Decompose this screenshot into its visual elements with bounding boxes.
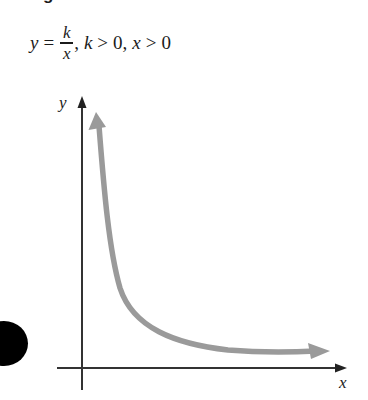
x-axis-arrowhead-icon — [335, 364, 347, 373]
y-axis-label: y — [59, 93, 67, 113]
hyperbola-curve — [99, 126, 316, 352]
plot-svg — [0, 0, 368, 400]
curve-right-arrowhead-icon — [308, 343, 330, 359]
curve-top-arrowhead-icon — [89, 112, 107, 130]
figure-container: Figure y = k x , k > 0 , x > 0 y x — [0, 0, 368, 400]
x-axis-label: x — [339, 373, 347, 393]
y-axis-arrowhead-icon — [78, 96, 87, 108]
